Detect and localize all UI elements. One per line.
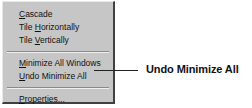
- callout-leader-line: [94, 70, 138, 71]
- menu-separator: [7, 51, 109, 53]
- menu-separator: [7, 87, 109, 89]
- menu-item-tile-vertically[interactable]: Tile Vertically: [3, 34, 113, 47]
- callout-label: Undo Minimize All: [146, 63, 239, 75]
- menu-item-undo-minimize-all[interactable]: Undo Minimize All: [3, 70, 113, 83]
- menu-item-properties[interactable]: Properties...: [3, 93, 113, 106]
- menu-item-cascade[interactable]: Cascade: [3, 8, 113, 21]
- taskbar-context-menu: Cascade Tile Horizontally Tile Verticall…: [2, 1, 115, 104]
- menu-item-tile-horizontally[interactable]: Tile Horizontally: [3, 21, 113, 34]
- menu-item-minimize-all-windows[interactable]: Minimize All Windows: [3, 57, 113, 70]
